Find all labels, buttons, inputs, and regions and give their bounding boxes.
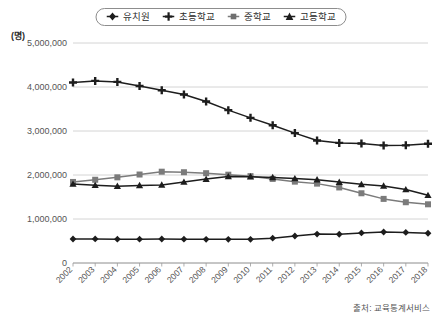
data-point (358, 190, 364, 196)
data-point (380, 229, 387, 236)
data-point (402, 229, 409, 236)
x-tick-label: 2015 (342, 264, 363, 285)
data-point (269, 121, 277, 129)
data-point (203, 170, 209, 176)
data-point (114, 174, 120, 180)
data-point (291, 129, 299, 137)
data-point (291, 233, 298, 240)
data-point (402, 141, 410, 149)
x-tick-label: 2007 (165, 264, 186, 285)
x-tick-label: 2012 (276, 264, 297, 285)
data-point (357, 140, 365, 148)
data-point (158, 236, 165, 243)
data-point (180, 90, 188, 98)
x-axis-line (73, 263, 428, 267)
data-point (70, 236, 77, 243)
x-axis-tick-labels: 2002200320042005200620072008200920102011… (54, 264, 430, 285)
x-tick-label: 2005 (120, 264, 141, 285)
data-point (425, 201, 431, 207)
data-point (358, 230, 365, 237)
data-point (335, 139, 343, 147)
x-tick-label: 2016 (364, 264, 385, 285)
x-tick-label: 2003 (76, 264, 97, 285)
data-point (425, 230, 432, 237)
x-tick-label: 2013 (298, 264, 319, 285)
data-point (158, 86, 166, 94)
data-point (69, 78, 77, 86)
x-tick-label: 2017 (387, 264, 408, 285)
y-tick-label: 1,000,000 (27, 214, 67, 224)
plot-area: 01,000,0002,000,0003,000,0004,000,0005,0… (0, 0, 442, 321)
x-tick-label: 2010 (231, 264, 252, 285)
x-tick-label: 2009 (209, 264, 230, 285)
data-point (113, 78, 121, 86)
series-2 (69, 77, 432, 150)
data-point (313, 137, 321, 145)
data-point (225, 236, 232, 243)
data-point (336, 184, 342, 190)
data-point (92, 236, 99, 243)
x-tick-label: 2004 (98, 264, 119, 285)
data-point (403, 199, 409, 205)
y-tick-label: 5,000,000 (27, 38, 67, 48)
data-point (336, 231, 343, 238)
data-point (314, 231, 321, 238)
data-point (381, 196, 387, 202)
data-point (247, 236, 254, 243)
data-point (380, 141, 388, 149)
y-tick-label: 2,000,000 (27, 170, 67, 180)
y-tick-label: 3,000,000 (27, 126, 67, 136)
x-tick-label: 2018 (409, 264, 430, 285)
series-1 (70, 229, 432, 243)
x-tick-label: 2014 (320, 264, 341, 285)
data-point (91, 77, 99, 85)
data-point (203, 236, 210, 243)
line-chart-svg: 01,000,0002,000,0003,000,0004,000,0005,0… (0, 0, 442, 321)
data-point (181, 169, 187, 175)
x-tick-label: 2002 (54, 264, 75, 285)
data-point (181, 236, 188, 243)
data-point (136, 82, 144, 90)
data-point (137, 172, 143, 178)
gridlines (73, 43, 428, 263)
data-point (159, 169, 165, 175)
x-tick-label: 2006 (143, 264, 164, 285)
chart-page: 유치원 초등학교 중학교 고등학교 (명) (0, 0, 442, 321)
y-tick-label: 4,000,000 (27, 82, 67, 92)
data-series-group (69, 77, 432, 243)
data-point (136, 236, 143, 243)
x-tick-label: 2008 (187, 264, 208, 285)
y-axis-tick-labels: 01,000,0002,000,0003,000,0004,000,0005,0… (27, 38, 67, 268)
data-point (269, 235, 276, 242)
source-note: 출처: 교육통계서비스 (353, 301, 430, 313)
data-point (224, 106, 232, 114)
data-point (424, 140, 432, 148)
data-point (247, 114, 255, 122)
x-tick-label: 2011 (254, 264, 274, 284)
data-point (114, 236, 121, 243)
data-point (202, 97, 210, 105)
